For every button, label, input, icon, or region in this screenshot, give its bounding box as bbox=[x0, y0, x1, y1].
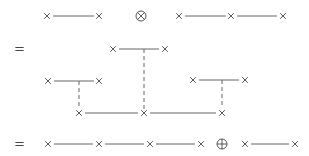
direct-sum-icon bbox=[217, 139, 227, 149]
row3-chain-4 bbox=[45, 141, 204, 147]
node-cross-icon bbox=[147, 141, 153, 147]
node-cross-icon bbox=[198, 141, 204, 147]
node-cross-icon bbox=[176, 13, 182, 19]
row3-chain-2 bbox=[242, 141, 298, 147]
row1-chain-3 bbox=[176, 13, 286, 19]
right-propagator bbox=[190, 77, 248, 108]
node-cross-icon bbox=[141, 110, 147, 116]
row1-chain-2 bbox=[44, 13, 102, 19]
node-cross-icon bbox=[228, 13, 234, 19]
node-cross-icon bbox=[110, 46, 116, 52]
node-cross-icon bbox=[76, 110, 82, 116]
node-cross-icon bbox=[280, 13, 286, 19]
node-cross-icon bbox=[219, 110, 225, 116]
node-cross-icon bbox=[96, 78, 102, 84]
equals-sign: = bbox=[14, 136, 25, 151]
tensor-product-icon bbox=[136, 11, 146, 21]
diagram-canvas: = = bbox=[0, 0, 309, 156]
node-cross-icon bbox=[45, 141, 51, 147]
left-propagator bbox=[45, 78, 102, 109]
node-cross-icon bbox=[162, 46, 168, 52]
bottom-chain bbox=[76, 110, 225, 116]
node-cross-icon bbox=[242, 77, 248, 83]
node-cross-icon bbox=[292, 141, 298, 147]
node-cross-icon bbox=[96, 13, 102, 19]
top-propagator bbox=[110, 46, 168, 109]
node-cross-icon bbox=[44, 13, 50, 19]
equals-sign: = bbox=[14, 41, 25, 56]
node-cross-icon bbox=[242, 141, 248, 147]
node-cross-icon bbox=[190, 77, 196, 83]
node-cross-icon bbox=[96, 141, 102, 147]
node-cross-icon bbox=[45, 78, 51, 84]
